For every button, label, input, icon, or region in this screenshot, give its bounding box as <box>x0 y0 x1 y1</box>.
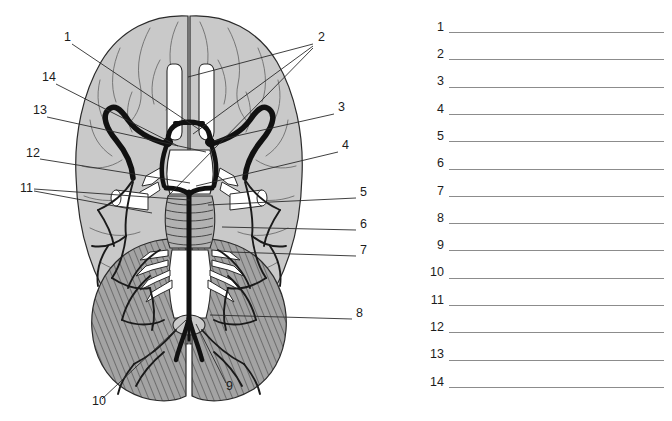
answer-blank-6[interactable] <box>449 158 672 170</box>
answer-number-10: 10 <box>418 266 444 279</box>
answer-row-6: 6 <box>418 154 672 174</box>
answer-row-1: 1 <box>418 17 672 37</box>
answer-number-9: 9 <box>418 239 444 252</box>
answer-row-14: 14 <box>418 372 672 392</box>
answer-number-1: 1 <box>418 21 444 34</box>
answer-blank-13[interactable] <box>449 349 672 361</box>
callout-label-10: 10 <box>92 394 106 408</box>
answer-row-3: 3 <box>418 72 672 92</box>
answer-blank-10[interactable] <box>449 267 672 279</box>
answer-row-11: 11 <box>418 290 672 310</box>
answer-row-4: 4 <box>418 99 672 119</box>
callout-label-11: 11 <box>20 181 33 195</box>
answer-blank-12[interactable] <box>449 321 672 333</box>
callout-label-3: 3 <box>338 100 345 114</box>
answer-key-panel: 1234567891011121314 <box>418 0 672 421</box>
answer-blank-3[interactable] <box>449 76 672 88</box>
answer-row-12: 12 <box>418 317 672 337</box>
answer-blank-9[interactable] <box>449 239 672 251</box>
answer-number-14: 14 <box>418 376 444 389</box>
answer-blank-14[interactable] <box>449 376 672 388</box>
callout-label-9: 9 <box>226 379 233 393</box>
answer-number-5: 5 <box>418 130 444 143</box>
callout-label-4: 4 <box>342 138 349 152</box>
answer-row-10: 10 <box>418 263 672 283</box>
answer-number-13: 13 <box>418 348 444 361</box>
callout-label-7: 7 <box>360 243 367 257</box>
answer-number-6: 6 <box>418 157 444 170</box>
answer-number-8: 8 <box>418 212 444 225</box>
callout-label-12: 12 <box>26 146 40 160</box>
answer-row-8: 8 <box>418 208 672 228</box>
answer-number-4: 4 <box>418 103 444 116</box>
answer-number-2: 2 <box>418 48 444 61</box>
answer-number-3: 3 <box>418 75 444 88</box>
brain-diagram: 1234567891011121314 <box>0 0 410 421</box>
callout-label-6: 6 <box>360 217 367 231</box>
callout-label-5: 5 <box>360 185 367 199</box>
answer-number-11: 11 <box>418 294 444 307</box>
answer-number-7: 7 <box>418 185 444 198</box>
answer-row-13: 13 <box>418 345 672 365</box>
answer-row-9: 9 <box>418 235 672 255</box>
callout-label-8: 8 <box>356 306 363 320</box>
callout-label-13: 13 <box>33 103 47 117</box>
answer-row-2: 2 <box>418 44 672 64</box>
answer-row-5: 5 <box>418 126 672 146</box>
anatomy-labeling-worksheet: 1234567891011121314 1234567891011121314 <box>0 0 672 421</box>
artery-junction-right <box>206 138 215 147</box>
answer-blank-5[interactable] <box>449 130 672 142</box>
answer-blank-8[interactable] <box>449 212 672 224</box>
callout-label-14: 14 <box>42 70 56 84</box>
brain-diagram-panel: 1234567891011121314 <box>0 0 410 421</box>
answer-number-12: 12 <box>418 321 444 334</box>
answer-blank-11[interactable] <box>449 294 672 306</box>
answer-blank-7[interactable] <box>449 185 672 197</box>
callout-label-2: 2 <box>318 30 325 44</box>
answer-blank-1[interactable] <box>449 21 672 33</box>
answer-blank-4[interactable] <box>449 103 672 115</box>
answer-blank-2[interactable] <box>449 48 672 60</box>
answer-row-7: 7 <box>418 181 672 201</box>
callout-label-1: 1 <box>64 30 71 44</box>
